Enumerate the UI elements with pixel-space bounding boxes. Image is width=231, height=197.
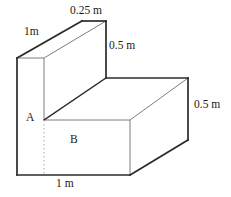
figure-root: 0.25 m 1m 0.5 m 0.5 m A B 1 m bbox=[0, 0, 231, 197]
dimension-label-top-depth: 0.25 m bbox=[70, 5, 102, 17]
dimension-label-top-slant: 1m bbox=[24, 26, 39, 38]
dimension-label-upper-height: 0.5 m bbox=[109, 40, 135, 52]
front-face-lower-block bbox=[17, 120, 130, 175]
vertex-label-a: A bbox=[26, 112, 34, 124]
face-label-b: B bbox=[70, 134, 78, 146]
dimension-label-bottom-width: 1 m bbox=[56, 178, 74, 190]
dimension-label-lower-height: 0.5 m bbox=[194, 99, 220, 111]
